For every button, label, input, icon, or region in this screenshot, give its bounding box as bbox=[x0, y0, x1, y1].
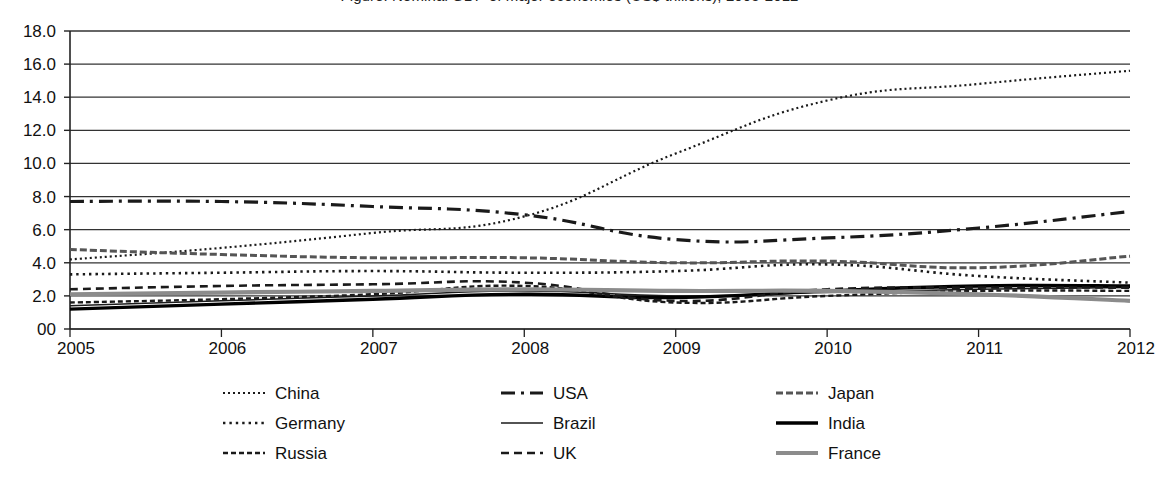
legend-swatch-russia-icon bbox=[222, 446, 266, 460]
legend-label: France bbox=[828, 445, 881, 462]
legend-item-france[interactable]: France bbox=[775, 438, 881, 468]
x-axis-tick-label: 2006 bbox=[209, 339, 247, 359]
x-axis-tick-label: 2007 bbox=[360, 339, 398, 359]
plot-area: 18.016.014.012.010.08.06.04.02.000 bbox=[0, 0, 1139, 345]
legend-column: ChinaGermanyRussia bbox=[222, 378, 345, 468]
y-axis-tick-label: 6.0 bbox=[32, 221, 56, 238]
legend-item-india[interactable]: India bbox=[775, 408, 881, 438]
legend-label: Russia bbox=[275, 445, 327, 462]
legend-label: Japan bbox=[828, 385, 874, 402]
legend-label: India bbox=[828, 415, 865, 432]
legend-swatch-uk-icon bbox=[500, 446, 544, 460]
chart-legend: ChinaGermanyRussiaUSABrazilUKJapanIndiaF… bbox=[0, 378, 1139, 478]
y-axis-tick-label: 18.0 bbox=[23, 23, 56, 40]
gridlines bbox=[70, 31, 1130, 329]
series-line-japan bbox=[70, 250, 1130, 268]
legend-item-russia[interactable]: Russia bbox=[222, 438, 345, 468]
y-axis-tick-label: 10.0 bbox=[23, 155, 56, 172]
y-axis-tick-label: 2.0 bbox=[32, 287, 56, 304]
y-axis-tick-label: 00 bbox=[37, 321, 56, 338]
series-line-china bbox=[70, 71, 1130, 260]
y-axis-tick-label: 16.0 bbox=[23, 56, 56, 73]
y-axis-ticks bbox=[64, 31, 70, 329]
series-line-usa bbox=[70, 201, 1130, 242]
x-axis-labels: 20052006200720082009201020112012 bbox=[0, 339, 1139, 369]
y-axis-tick-label: 8.0 bbox=[32, 188, 56, 205]
legend-item-brazil[interactable]: Brazil bbox=[500, 408, 596, 438]
legend-item-japan[interactable]: Japan bbox=[775, 378, 881, 408]
y-axis-tick-label: 12.0 bbox=[23, 122, 56, 139]
x-axis-tick-label: 2005 bbox=[57, 339, 95, 359]
axis-lines bbox=[70, 31, 1130, 329]
legend-swatch-usa-icon bbox=[500, 386, 544, 400]
y-axis-tick-label: 14.0 bbox=[23, 89, 56, 106]
legend-item-germany[interactable]: Germany bbox=[222, 408, 345, 438]
legend-swatch-japan-icon bbox=[775, 386, 819, 400]
x-axis-tick-label: 2009 bbox=[663, 339, 701, 359]
legend-swatch-india-icon bbox=[775, 416, 819, 430]
data-series-group bbox=[70, 71, 1130, 309]
x-axis-tick-label: 2012 bbox=[1117, 339, 1155, 359]
legend-label: Germany bbox=[275, 415, 345, 432]
y-axis-tick-label: 4.0 bbox=[32, 254, 56, 271]
legend-swatch-china-icon bbox=[222, 386, 266, 400]
legend-label: UK bbox=[553, 445, 577, 462]
x-axis-tick-label: 2010 bbox=[814, 339, 852, 359]
legend-swatch-brazil-icon bbox=[500, 416, 544, 430]
legend-column: USABrazilUK bbox=[500, 378, 596, 468]
x-axis-ticks bbox=[70, 329, 1130, 337]
y-axis-labels: 18.016.014.012.010.08.06.04.02.000 bbox=[0, 0, 62, 345]
x-axis-tick-label: 2008 bbox=[511, 339, 549, 359]
legend-item-usa[interactable]: USA bbox=[500, 378, 596, 408]
plot-svg bbox=[0, 0, 1139, 345]
legend-item-china[interactable]: China bbox=[222, 378, 345, 408]
legend-swatch-germany-icon bbox=[222, 416, 266, 430]
legend-label: China bbox=[275, 385, 319, 402]
legend-label: USA bbox=[553, 385, 588, 402]
legend-swatch-france-icon bbox=[775, 446, 819, 460]
legend-column: JapanIndiaFrance bbox=[775, 378, 881, 468]
legend-item-uk[interactable]: UK bbox=[500, 438, 596, 468]
legend-label: Brazil bbox=[553, 415, 596, 432]
x-axis-tick-label: 2011 bbox=[966, 339, 1003, 359]
